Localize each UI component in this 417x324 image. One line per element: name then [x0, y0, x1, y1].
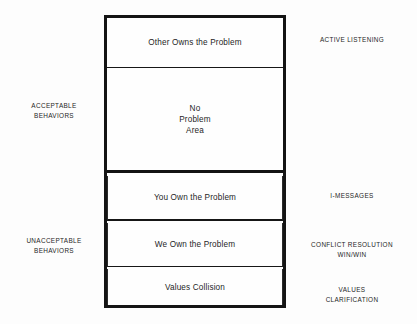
box-we-own-the-problem: We Own the Problem — [107, 223, 283, 267]
box-other-owns-the-problem: Other Owns the Problem — [107, 18, 283, 68]
box-you-own-the-problem: You Own the Problem — [107, 176, 283, 221]
behavior-window-diagram: Other Owns the Problem No Problem Area Y… — [0, 0, 417, 324]
label-active-listening: ACTIVE LISTENING — [294, 35, 410, 45]
box-label-no-problem-area: No Problem Area — [179, 103, 211, 136]
label-conflict-resolution: CONFLICT RESOLUTION WIN/WIN — [294, 240, 410, 259]
box-no-problem-area: No Problem Area — [107, 68, 283, 173]
box-label-values-collision: Values Collision — [165, 282, 225, 293]
label-unacceptable-behaviors: UNACCEPTABLE BEHAVIORS — [6, 236, 102, 255]
box-label-other-owns-the-problem: Other Owns the Problem — [148, 37, 241, 48]
label-values-clarification: VALUES CLARIFICATION — [294, 285, 410, 304]
label-acceptable-behaviors: ACCEPTABLE BEHAVIORS — [6, 101, 102, 120]
box-label-we-own-the-problem: We Own the Problem — [155, 239, 235, 250]
box-values-collision: Values Collision — [107, 269, 283, 305]
box-label-you-own-the-problem: You Own the Problem — [154, 192, 236, 203]
label-i-messages: I-MESSAGES — [294, 191, 410, 201]
behavior-box-stack: Other Owns the Problem No Problem Area Y… — [104, 15, 286, 308]
